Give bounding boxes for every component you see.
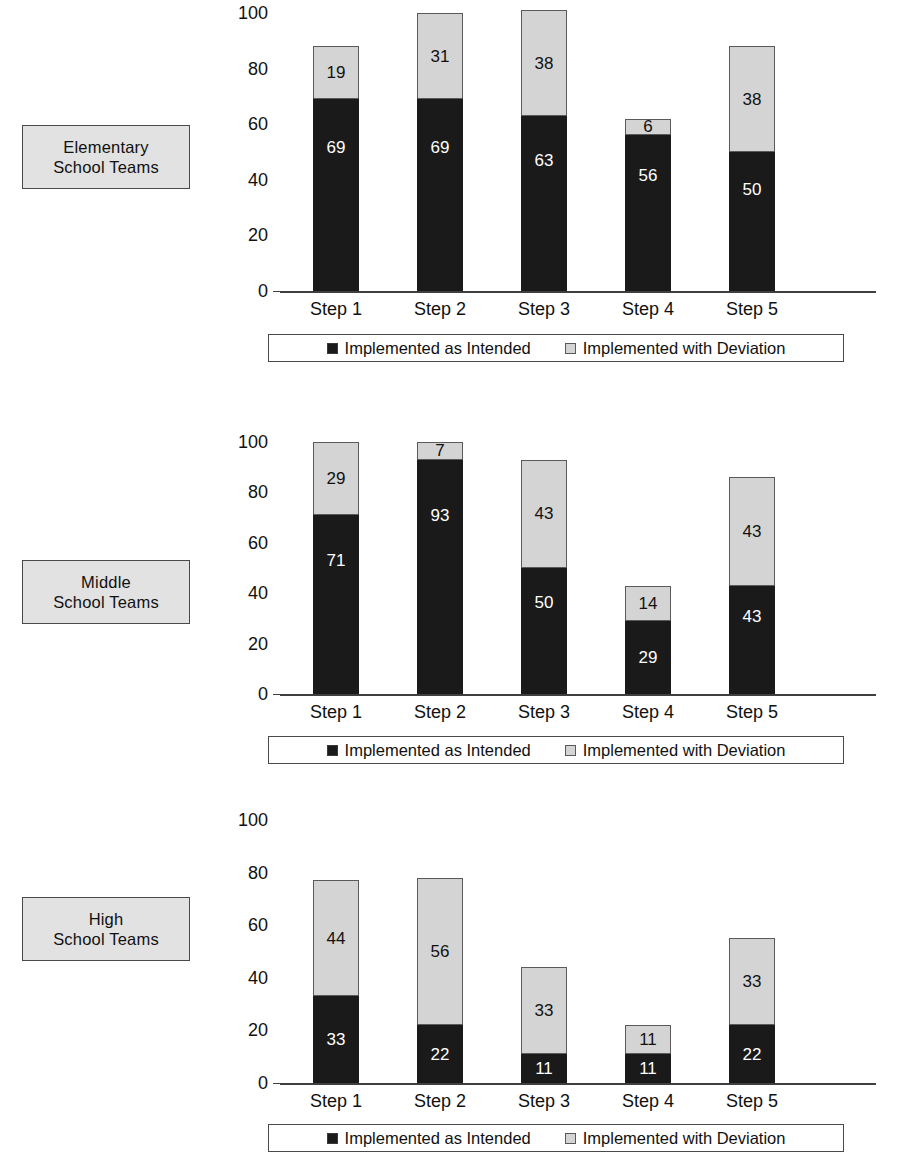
legend-swatch-deviation-icon — [565, 1133, 576, 1144]
y-axis-tick-label: 0 — [222, 282, 268, 300]
y-axis-tick-label: 100 — [222, 811, 268, 829]
stacked-bar: 1111 — [625, 1025, 671, 1083]
bar-segment-value-label: 38 — [743, 91, 762, 108]
bar-segment-intended: 11 — [521, 1054, 567, 1083]
stacked-bar: 2971 — [313, 442, 359, 694]
legend-label: Implemented as Intended — [345, 741, 531, 760]
chart-legend: Implemented as IntendedImplemented with … — [268, 736, 844, 764]
bar-segment-deviation: 7 — [417, 442, 463, 460]
stacked-bar: 4350 — [521, 460, 567, 694]
panel-category-label-line2: School Teams — [53, 157, 159, 177]
legend-label: Implemented as Intended — [345, 339, 531, 358]
y-axis-tick-label: 80 — [222, 483, 268, 501]
bar-segment-value-label: 63 — [535, 152, 554, 169]
legend-label: Implemented as Intended — [345, 1129, 531, 1148]
stacked-bar: 3311 — [521, 967, 567, 1083]
legend-item-intended[interactable]: Implemented as Intended — [327, 741, 531, 760]
y-axis-tick-label: 60 — [222, 534, 268, 552]
bar-segment-intended: 11 — [625, 1054, 671, 1083]
bar-segment-intended: 43 — [729, 586, 775, 694]
stacked-bar: 3322 — [729, 938, 775, 1083]
y-axis-zero-tick — [273, 291, 280, 292]
x-axis-line — [280, 694, 876, 696]
bar-segment-deviation: 6 — [625, 119, 671, 136]
y-axis-tick-label: 0 — [222, 685, 268, 703]
panel-category-label: MiddleSchool Teams — [22, 560, 190, 624]
bar-segment-value-label: 22 — [431, 1046, 450, 1063]
stacked-bar: 5622 — [417, 878, 463, 1083]
y-axis-tick-label: 20 — [222, 635, 268, 653]
bar-segment-intended: 29 — [625, 621, 671, 694]
x-axis-tick-label: Step 5 — [707, 702, 797, 722]
legend-item-deviation[interactable]: Implemented with Deviation — [565, 741, 786, 760]
bar-segment-value-label: 11 — [639, 1031, 657, 1048]
panel-category-label: ElementarySchool Teams — [22, 125, 190, 189]
x-axis-tick-label: Step 5 — [707, 299, 797, 319]
bar-segment-deviation: 56 — [417, 878, 463, 1025]
bar-segment-value-label: 50 — [743, 181, 762, 198]
bar-segment-value-label: 50 — [535, 594, 554, 611]
legend-item-deviation[interactable]: Implemented with Deviation — [565, 339, 786, 358]
bar-segment-value-label: 33 — [327, 1031, 346, 1048]
y-axis-tick-label: 20 — [222, 226, 268, 244]
x-axis-line — [280, 1083, 876, 1085]
bar-segment-value-label: 71 — [327, 552, 346, 569]
stacked-bar: 4433 — [313, 880, 359, 1083]
x-axis-line — [280, 291, 876, 293]
bar-segment-value-label: 33 — [535, 1002, 554, 1019]
bar-segment-value-label: 29 — [327, 470, 346, 487]
legend-item-deviation[interactable]: Implemented with Deviation — [565, 1129, 786, 1148]
bar-segment-value-label: 33 — [743, 973, 762, 990]
x-axis-tick-label: Step 2 — [395, 702, 485, 722]
y-axis-zero-tick — [273, 694, 280, 695]
stacked-bar: 4343 — [729, 477, 775, 694]
bar-segment-intended: 50 — [729, 152, 775, 291]
bar-segment-deviation: 31 — [417, 13, 463, 99]
bar-segment-deviation: 43 — [521, 460, 567, 568]
bar-segment-deviation: 33 — [729, 938, 775, 1025]
bar-segment-value-label: 7 — [435, 442, 444, 459]
bar-segment-value-label: 69 — [431, 139, 450, 156]
x-axis-tick-label: Step 1 — [291, 1091, 381, 1111]
y-axis-tick-label: 40 — [222, 969, 268, 987]
x-axis-tick-label: Step 1 — [291, 702, 381, 722]
y-axis-tick-label: 80 — [222, 60, 268, 78]
panel-category-label-line1: Middle — [81, 572, 131, 592]
chart-legend: Implemented as IntendedImplemented with … — [268, 1124, 844, 1152]
x-axis-tick-label: Step 3 — [499, 1091, 589, 1111]
stacked-bar: 656 — [625, 119, 671, 291]
x-axis-tick-label: Step 2 — [395, 1091, 485, 1111]
stacked-bar: 793 — [417, 442, 463, 694]
x-axis-tick-label: Step 5 — [707, 1091, 797, 1111]
x-axis-tick-label: Step 4 — [603, 1091, 693, 1111]
legend-label: Implemented with Deviation — [583, 1129, 786, 1148]
y-axis-tick-label: 80 — [222, 864, 268, 882]
bar-segment-intended: 69 — [417, 99, 463, 291]
x-axis-tick-label: Step 4 — [603, 299, 693, 319]
x-axis-tick-label: Step 1 — [291, 299, 381, 319]
bar-segment-value-label: 11 — [535, 1060, 553, 1077]
bar-segment-intended: 33 — [313, 996, 359, 1083]
bar-segment-deviation: 11 — [625, 1025, 671, 1054]
legend-swatch-intended-icon — [327, 343, 338, 354]
bar-segment-value-label: 56 — [431, 943, 450, 960]
y-axis-zero-tick — [273, 1083, 280, 1084]
bar-segment-intended: 50 — [521, 568, 567, 694]
stacked-bar: 3863 — [521, 10, 567, 291]
bar-segment-value-label: 43 — [535, 505, 554, 522]
x-axis-tick-label: Step 2 — [395, 299, 485, 319]
legend-item-intended[interactable]: Implemented as Intended — [327, 339, 531, 358]
bar-segment-value-label: 6 — [643, 118, 652, 135]
legend-swatch-intended-icon — [327, 745, 338, 756]
bar-segment-intended: 22 — [417, 1025, 463, 1083]
stacked-bar: 3169 — [417, 13, 463, 291]
bar-segment-deviation: 38 — [521, 10, 567, 116]
y-axis-tick-label: 20 — [222, 1021, 268, 1039]
panel-category-label-line1: Elementary — [63, 137, 148, 157]
bar-segment-value-label: 44 — [327, 930, 346, 947]
bar-segment-value-label: 56 — [639, 167, 658, 184]
bar-segment-intended: 93 — [417, 460, 463, 694]
bar-segment-value-label: 19 — [327, 64, 346, 81]
legend-item-intended[interactable]: Implemented as Intended — [327, 1129, 531, 1148]
panel-category-label-line2: School Teams — [53, 592, 159, 612]
